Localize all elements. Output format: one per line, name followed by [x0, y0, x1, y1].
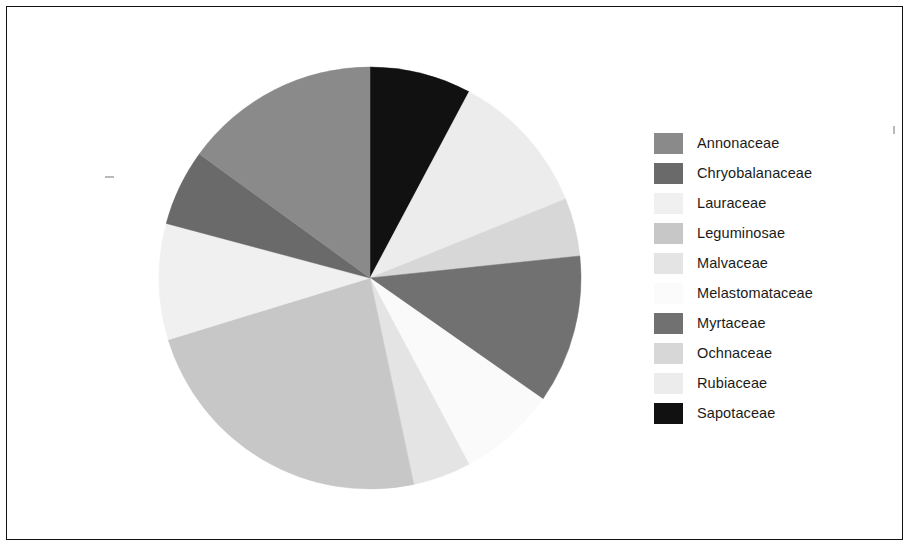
legend-item: Ochnaceae: [654, 338, 874, 368]
pie-slice-group: [159, 67, 581, 489]
legend-swatch: [654, 373, 683, 394]
legend-label: Annonaceae: [697, 135, 779, 151]
legend-swatch: [654, 313, 683, 334]
scan-artifact-left: [105, 176, 114, 178]
legend-item: Malvaceae: [654, 248, 874, 278]
legend-item: Sapotaceae: [654, 398, 874, 428]
legend-swatch: [654, 133, 683, 154]
figure-canvas: AnnonaceaeChryobalanaceaeLauraceaeLegumi…: [0, 0, 910, 558]
legend-swatch: [654, 223, 683, 244]
scan-artifact-right: [893, 126, 895, 134]
legend-item: Melastomataceae: [654, 278, 874, 308]
legend-swatch: [654, 343, 683, 364]
legend-item: Myrtaceae: [654, 308, 874, 338]
legend-item: Lauraceae: [654, 188, 874, 218]
chart-legend: AnnonaceaeChryobalanaceaeLauraceaeLegumi…: [654, 128, 874, 428]
legend-label: Sapotaceae: [697, 405, 775, 421]
legend-label: Rubiaceae: [697, 375, 767, 391]
legend-label: Malvaceae: [697, 255, 768, 271]
legend-item: Leguminosae: [654, 218, 874, 248]
legend-swatch: [654, 163, 683, 184]
legend-label: Ochnaceae: [697, 345, 772, 361]
legend-item: Chryobalanaceae: [654, 158, 874, 188]
legend-swatch: [654, 253, 683, 274]
legend-label: Myrtaceae: [697, 315, 766, 331]
legend-label: Chryobalanaceae: [697, 165, 812, 181]
legend-swatch: [654, 403, 683, 424]
legend-swatch: [654, 283, 683, 304]
legend-item: Annonaceae: [654, 128, 874, 158]
legend-label: Melastomataceae: [697, 285, 813, 301]
legend-swatch: [654, 193, 683, 214]
legend-item: Rubiaceae: [654, 368, 874, 398]
legend-label: Leguminosae: [697, 225, 785, 241]
legend-label: Lauraceae: [697, 195, 766, 211]
